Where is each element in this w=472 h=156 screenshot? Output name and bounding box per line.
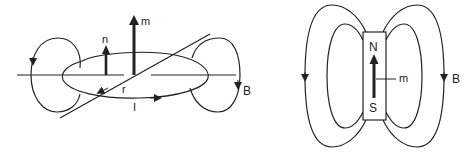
label-south: S bbox=[369, 101, 377, 115]
label-north: N bbox=[369, 40, 378, 54]
current-loop-figure bbox=[17, 34, 240, 118]
magnetic-moment-arrowhead bbox=[129, 15, 139, 25]
field-line-outer-right bbox=[383, 5, 444, 147]
label-current: I bbox=[133, 101, 136, 113]
field-line-outer-left bbox=[305, 5, 366, 147]
label-r: r bbox=[122, 83, 126, 95]
label-m-left: m bbox=[141, 15, 150, 27]
normal-arrowhead bbox=[102, 45, 110, 54]
dipole-diagram: m n r I B N S m B bbox=[0, 0, 472, 156]
label-B-right: B bbox=[452, 72, 460, 86]
label-m-right: m bbox=[399, 72, 408, 84]
field-line-inner-left bbox=[327, 24, 363, 128]
label-B-left: B bbox=[243, 84, 251, 98]
label-n: n bbox=[102, 33, 108, 45]
